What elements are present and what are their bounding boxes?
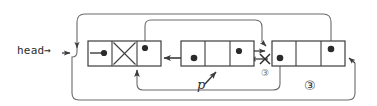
linked-list-diagram [0, 0, 377, 106]
pointer-p-arrow [205, 72, 216, 84]
node-2-box [181, 41, 254, 66]
node-3-cell-3-dot [328, 46, 335, 53]
node-3-box [272, 41, 345, 66]
node-3 [272, 41, 345, 66]
node-2-cell-3-dot [236, 48, 242, 54]
head-label: head→ [17, 45, 51, 56]
node-1-cell-1-dot [101, 50, 107, 56]
diagram-canvas: head→ p ③ ③ [0, 0, 377, 106]
node-3-cell-1-dot [277, 55, 284, 62]
node-1-cell-3-dot [142, 45, 148, 51]
step-marker-small: ③ [261, 69, 269, 78]
edge-outer-bottom-arrowhead [349, 58, 355, 63]
edge-node1-cell3-loop-arrowhead [262, 42, 266, 46]
node-1 [88, 41, 161, 66]
node-2-cell-1-dot [191, 55, 198, 62]
pointer-p-label: p [197, 78, 205, 91]
node-2 [181, 41, 254, 66]
step-marker-large: ③ [304, 79, 316, 92]
